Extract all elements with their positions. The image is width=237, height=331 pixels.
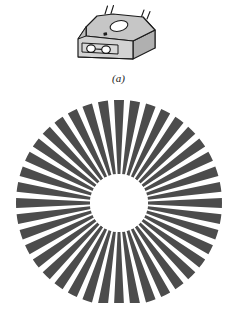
front-detector-lens-icon	[102, 46, 111, 53]
encoder-hub-hole	[90, 174, 148, 232]
panel-a-sensor-module: (a)	[0, 0, 237, 92]
encoder-spoke	[114, 232, 124, 303]
encoder-spoke	[16, 198, 90, 208]
encoder-spoke	[114, 100, 124, 174]
panel-b-encoder-disk: (b)	[0, 95, 237, 331]
encoder-disk-illustration	[0, 95, 237, 303]
front-emitter-lens-icon	[87, 45, 96, 52]
encoder-spoke	[148, 198, 222, 208]
figure-root: (a) (b)	[0, 0, 237, 331]
lead-wire-4	[147, 12, 150, 20]
panel-a-caption: (a)	[0, 72, 237, 84]
lead-wire-1	[105, 6, 108, 14]
optical-sensor-illustration	[0, 0, 237, 72]
lead-wire-2	[111, 6, 114, 14]
top-index-dot	[103, 32, 107, 36]
